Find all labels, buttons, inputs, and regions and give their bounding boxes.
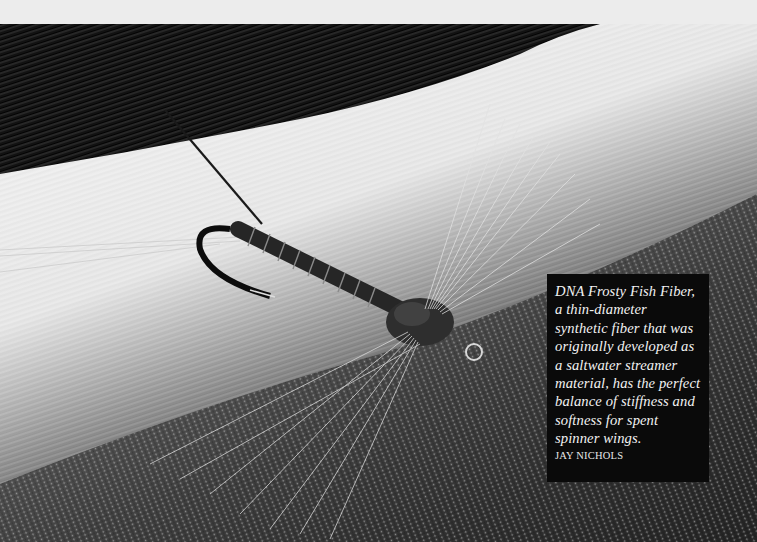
caption-text: DNA Frosty Fish Fiber, a thin-diameter s…	[555, 282, 703, 448]
page-top-margin	[0, 0, 757, 24]
photo-caption: DNA Frosty Fish Fiber, a thin-diameter s…	[547, 274, 709, 482]
photo-credit: JAY NICHOLS	[555, 450, 703, 461]
